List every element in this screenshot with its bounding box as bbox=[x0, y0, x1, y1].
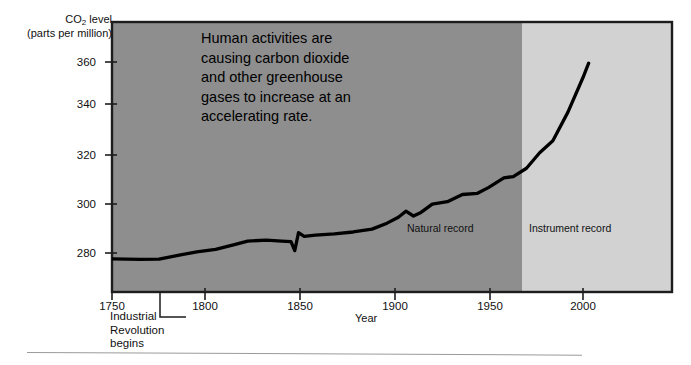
y-tick-label-280: 280 bbox=[62, 247, 96, 259]
x-tick-label-2000: 2000 bbox=[560, 300, 606, 312]
x-tick-label-1800: 1800 bbox=[182, 300, 228, 312]
annotation-line-2: causing carbon dioxide bbox=[201, 49, 451, 69]
y-tick-label-340: 340 bbox=[62, 98, 96, 110]
co2-chart-figure: CO2 level (parts per million) bbox=[0, 0, 691, 365]
x-tick-label-1950: 1950 bbox=[467, 300, 513, 312]
instrument-record-label: Instrument record bbox=[529, 222, 611, 234]
y-tick-label-320: 320 bbox=[62, 149, 96, 161]
chart-annotation: Human activities are causing carbon diox… bbox=[201, 29, 451, 127]
x-axis-title: Year bbox=[355, 312, 377, 324]
instrument-record-region bbox=[522, 22, 672, 292]
annotation-line-1: Human activities are bbox=[201, 29, 451, 49]
annotation-line-5: accelerating rate. bbox=[201, 107, 451, 127]
x-tick-label-1900: 1900 bbox=[372, 300, 418, 312]
annotation-line-3: and other greenhouse bbox=[201, 68, 451, 88]
y-tick-label-300: 300 bbox=[62, 198, 96, 210]
y-tick-label-360: 360 bbox=[62, 56, 96, 68]
industrial-revolution-note: Industrial Revolution begins bbox=[110, 310, 164, 351]
x-tick-label-1850: 1850 bbox=[277, 300, 323, 312]
annotation-line-4: gases to increase at an bbox=[201, 88, 451, 108]
natural-record-label: Natural record bbox=[407, 222, 474, 234]
